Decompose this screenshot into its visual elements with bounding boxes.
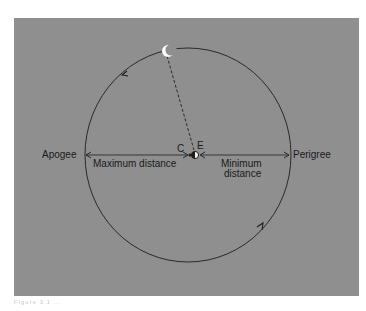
earth-label: E	[197, 140, 204, 151]
min-distance-label-line2: distance	[224, 168, 261, 179]
apogee-label: Apogee	[42, 149, 76, 160]
moon-earth-dashed-line	[167, 56, 194, 150]
perigee-label: Perigree	[293, 149, 331, 160]
max-distance-label: Maximum distance	[93, 158, 176, 169]
figure-caption: Figure 3.1 ...	[14, 299, 62, 305]
orbit-direction-arrow-lower	[257, 223, 263, 230]
moon-crescent-icon	[162, 44, 177, 57]
earth-icon	[191, 151, 198, 158]
center-label: C	[177, 143, 184, 154]
